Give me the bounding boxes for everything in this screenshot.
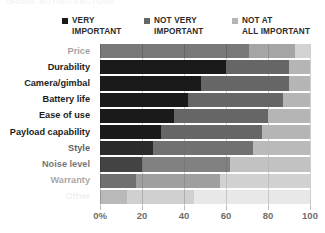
plot-area xyxy=(100,44,310,206)
legend-item-not-very-important: NOT VERY IMPORTANT xyxy=(144,16,218,37)
bar-row xyxy=(100,76,310,90)
category-label-durability: Durability xyxy=(48,62,90,73)
category-label-price: Price xyxy=(68,46,90,57)
bar-segment xyxy=(226,60,289,74)
bar-segment xyxy=(262,125,310,139)
x-label-40: 40 xyxy=(179,210,190,222)
chart-legend: VERY IMPORTANT NOT VERY IMPORTANT NOT AT… xyxy=(62,16,320,40)
bar-segment xyxy=(230,157,310,171)
x-label-20: 20 xyxy=(137,210,148,222)
bar-segment xyxy=(100,44,249,58)
x-label-60: 60 xyxy=(221,210,232,222)
x-axis-labels: 0%20406080100 xyxy=(0,210,325,226)
bar-row xyxy=(100,109,310,123)
category-label-noise-level: Noise level xyxy=(42,159,90,170)
bar-segment xyxy=(100,141,153,155)
x-label-0: 0% xyxy=(93,210,107,222)
bar-segment xyxy=(100,125,161,139)
bar-segment xyxy=(201,76,289,90)
bar-segment xyxy=(100,109,174,123)
bar-row xyxy=(100,190,310,204)
bar-segment xyxy=(249,44,295,58)
legend-label-very-important: VERY IMPORTANT xyxy=(72,16,130,37)
bar-segment xyxy=(161,125,262,139)
bar-segment xyxy=(295,44,310,58)
bar-row xyxy=(100,157,310,171)
category-label-warranty: Warranty xyxy=(51,175,90,186)
category-label-ease-of-use: Ease of use xyxy=(39,110,90,121)
bar-segment xyxy=(100,190,127,204)
gridline-100 xyxy=(310,44,311,206)
bar-row xyxy=(100,141,310,155)
category-label-payload-capability: Payload capability xyxy=(10,127,90,138)
category-label-style: Style xyxy=(68,143,90,154)
bar-segment xyxy=(268,109,310,123)
bar-segment xyxy=(289,60,310,74)
bar-segment xyxy=(136,174,220,188)
category-label-other: Other xyxy=(65,191,90,202)
legend-label-not-at-all-important: NOT AT ALL IMPORTANT xyxy=(242,16,325,37)
bar-segment xyxy=(174,109,269,123)
stacked-bar-chart: DRONE BUYING FACTORS VERY IMPORTANT NOT … xyxy=(0,0,325,233)
bar-row xyxy=(100,174,310,188)
bar-segment xyxy=(283,93,310,107)
bar-segment xyxy=(194,190,310,204)
category-axis-labels: PriceDurabilityCamera/gimbalBattery life… xyxy=(0,44,95,206)
legend-swatch-very-important xyxy=(62,18,68,24)
legend-swatch-not-at-all-important xyxy=(232,18,238,24)
bar-row xyxy=(100,125,310,139)
bar-segment xyxy=(100,76,201,90)
page-title: DRONE BUYING FACTORS xyxy=(6,0,156,6)
x-label-100: 100 xyxy=(302,210,318,222)
bar-segment xyxy=(100,157,142,171)
legend-swatch-not-very-important xyxy=(144,18,150,24)
bar-row xyxy=(100,60,310,74)
chart-title-cutoff: DRONE BUYING FACTORS xyxy=(6,0,156,7)
bar-segment xyxy=(142,157,230,171)
bar-segment xyxy=(100,174,136,188)
legend-item-not-at-all-important: NOT AT ALL IMPORTANT xyxy=(232,16,325,37)
bar-segment xyxy=(253,141,310,155)
bar-segment xyxy=(100,93,188,107)
bar-segment xyxy=(188,93,283,107)
bar-row xyxy=(100,93,310,107)
bar-segment xyxy=(127,190,194,204)
x-label-80: 80 xyxy=(263,210,274,222)
bar-rows xyxy=(100,44,310,206)
bar-segment xyxy=(100,60,226,74)
bar-segment xyxy=(220,174,310,188)
legend-item-very-important: VERY IMPORTANT xyxy=(62,16,130,37)
bar-segment xyxy=(153,141,254,155)
bar-row xyxy=(100,44,310,58)
legend-label-not-very-important: NOT VERY IMPORTANT xyxy=(154,16,218,37)
category-label-camera-gimbal: Camera/gimbal xyxy=(24,78,90,89)
category-label-battery-life: Battery life xyxy=(43,94,91,105)
bar-segment xyxy=(289,76,310,90)
